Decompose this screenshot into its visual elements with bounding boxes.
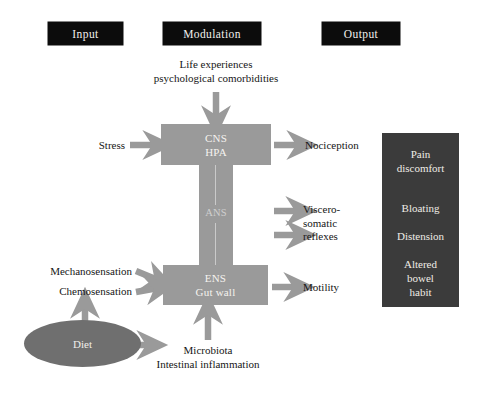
cns-hpa-label: CNS HPA (161, 132, 271, 159)
life-experiences-line1: Life experiences (116, 58, 316, 72)
input-label-chemosensation: Chemosensation (10, 285, 132, 299)
block-ens-gut-wall: ENS Gut wall (163, 265, 268, 305)
input-label-stress: Stress (40, 139, 125, 153)
symptom-pain-line1: Pain (382, 147, 459, 161)
header-label-input: Input (72, 28, 98, 40)
arrow-right-mechanosensation (136, 271, 158, 280)
symptom-altered-line2: bowel (382, 271, 459, 285)
symptom-panel: Pain discomfort Bloating Distension Alte… (382, 133, 459, 307)
output-label-nociception: Nociception (305, 139, 359, 153)
input-label-mechanosensation: Mechanosensation (10, 265, 132, 279)
output-label-viscerosomatic-reflexes: Viscero- somatic reflexes (303, 203, 340, 244)
symptom-altered-line1: Altered (382, 257, 459, 271)
symptom-pain-line2: discomfort (382, 161, 459, 175)
microbiota-line1: Microbiota (118, 344, 298, 358)
hpa-line: HPA (161, 146, 271, 160)
arrow-right-chemosensation (136, 288, 158, 292)
block-cns-hpa: CNS HPA (161, 124, 271, 165)
diet-label: Diet (73, 338, 92, 350)
life-experiences-line2: psychological comorbidities (116, 72, 316, 86)
symptom-bloating: Bloating (382, 201, 459, 215)
microbiota-line2: Intestinal inflammation (118, 358, 298, 372)
symptom-distension: Distension (382, 229, 459, 243)
header-box-output: Output (322, 22, 400, 45)
symptom-altered-line3: habit (382, 285, 459, 299)
symptom-pain-discomfort: Pain discomfort (382, 147, 459, 175)
ans-seam-lower (215, 223, 216, 265)
ens-gut-wall-label: ENS Gut wall (163, 272, 268, 299)
header-label-output: Output (344, 28, 378, 40)
microbiota-note: Microbiota Intestinal inflammation (118, 344, 298, 371)
input-ellipse-diet: Diet (24, 320, 141, 367)
header-box-modulation: Modulation (163, 22, 261, 45)
block-ans: ANS (199, 165, 233, 265)
header-label-modulation: Modulation (183, 28, 241, 40)
life-experiences-note: Life experiences psychological comorbidi… (116, 58, 316, 85)
output-label-motility: Motility (303, 281, 339, 295)
ens-line: ENS (163, 272, 268, 286)
viscerosomatic-line2: somatic (303, 217, 340, 231)
viscerosomatic-line3: reflexes (303, 230, 340, 244)
symptom-altered-bowel-habit: Altered bowel habit (382, 257, 459, 299)
ans-seam-upper (215, 165, 216, 205)
gut-wall-line: Gut wall (163, 286, 268, 300)
figure-canvas: Input Modulation Output Life experiences… (0, 0, 477, 398)
viscerosomatic-line1: Viscero- (303, 203, 340, 217)
ans-label: ANS (199, 206, 233, 220)
header-box-input: Input (48, 22, 123, 45)
cns-line: CNS (161, 132, 271, 146)
